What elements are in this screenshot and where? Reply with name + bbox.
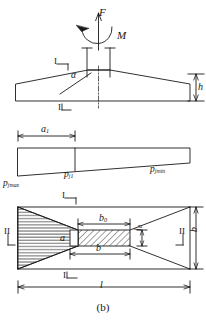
section-mark-I-top [57,64,68,70]
label-angle-alpha: α [71,71,76,81]
label-dimension-l: l [100,280,103,290]
label-pressure-min: pjmin [150,165,165,175]
dimension-l [18,281,190,293]
dimension-b-right [189,207,203,269]
moment-M-arrowhead [77,26,89,32]
center-block-left-strip [70,230,78,246]
label-dimension-a1: a1 [41,124,49,134]
section-mark-I-bottom [62,104,71,110]
label-height-h: h [198,82,203,92]
label-section-I-elevation-bottom: I [58,103,61,112]
label-section-I-elevation-top: I [54,57,57,66]
figure-caption: (b) [0,301,206,313]
center-column-block [78,230,130,246]
label-dimension-l0: l0 [133,225,143,231]
label-moment-M: M [117,30,126,41]
left-zone-hatched [18,207,78,269]
label-dimension-b0: b0 [99,213,107,223]
label-section-I-plan-top: I [62,191,65,200]
section-mark-I-plan-top [65,198,76,204]
label-pressure-mid: pj1 [64,170,73,180]
foundation-figure [0,0,206,325]
section-mark-I-plan-bottom [67,272,77,278]
diagonal-bottom-right [130,246,190,269]
label-dimension-a: a [60,233,65,243]
label-pressure-max: pjmax [3,179,19,189]
label-force-F: F [99,7,106,18]
label-dimension-b-right: b [189,227,199,232]
label-section-II-left: II [4,227,10,236]
label-section-II-right: II [179,227,185,236]
elevation-group [16,13,204,110]
footing-pad-outline [16,70,190,101]
label-dimension-b-bottom: b [96,243,101,253]
dimension-l0 [137,230,147,246]
label-section-I-plan-bottom: I [63,271,66,280]
